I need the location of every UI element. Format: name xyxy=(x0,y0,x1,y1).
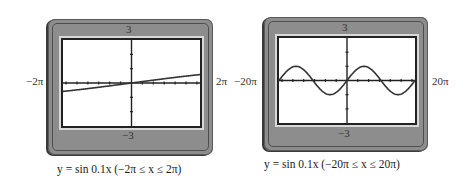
plot-2-ymax-label: 3 xyxy=(342,22,348,33)
plot-1-ymin-label: −3 xyxy=(122,130,134,141)
plot-1-caption: y = sin 0.1x (−2π ≤ x ≤ 2π) xyxy=(57,163,181,175)
plot-1-xmin-label: −2π xyxy=(26,76,43,87)
plot-1-svg xyxy=(63,40,200,126)
plot-2-xmax-label: 20π xyxy=(432,76,449,87)
graph-screen-2 xyxy=(277,36,417,125)
graph-screen-1 xyxy=(61,38,202,128)
plot-1-xmax-label: 2π xyxy=(216,76,227,87)
plot-2-ymin-label: −3 xyxy=(338,128,350,139)
plot-1-ymax-label: 3 xyxy=(126,24,132,35)
plot-2-svg xyxy=(279,38,415,123)
plot-2-xmin-label: −20π xyxy=(234,76,257,87)
plot-2-caption: y = sin 0.1x (−20π ≤ x ≤ 20π) xyxy=(264,158,400,170)
